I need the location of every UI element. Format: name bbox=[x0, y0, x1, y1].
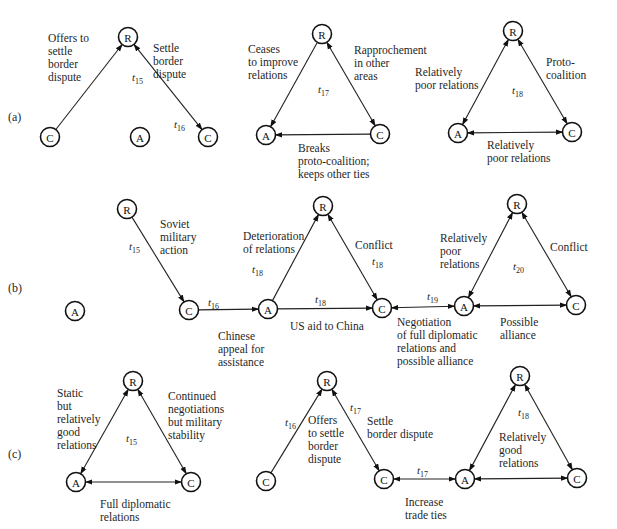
node-r: R bbox=[504, 22, 523, 41]
edge-a-c bbox=[474, 478, 567, 479]
svg-text:R: R bbox=[516, 371, 524, 383]
node-c: C bbox=[182, 473, 201, 492]
svg-text:R: R bbox=[323, 376, 331, 388]
node-a: A bbox=[455, 297, 474, 316]
svg-text:A: A bbox=[454, 128, 462, 140]
edge-label: Chineseappeal forassistance bbox=[218, 330, 264, 368]
node-r: R bbox=[318, 372, 337, 391]
edge-label: Possiblealliance bbox=[500, 316, 538, 341]
time-label: t17 bbox=[417, 464, 428, 479]
edge-c-a3 bbox=[391, 306, 454, 308]
panel-time-label: t17 bbox=[318, 83, 329, 98]
svg-text:A: A bbox=[264, 304, 272, 316]
svg-text:A: A bbox=[460, 301, 468, 313]
node-a: A bbox=[259, 300, 278, 319]
edge-label: Conflict bbox=[355, 239, 393, 251]
time-label: t15 bbox=[129, 240, 140, 255]
edge-label: Full diplomaticrelations bbox=[100, 498, 171, 523]
svg-text:R: R bbox=[513, 199, 521, 211]
edge-label: Settleborder dispute bbox=[367, 415, 433, 441]
edge-r-c bbox=[518, 39, 567, 124]
row-label: (b) bbox=[8, 281, 22, 295]
node-a: A bbox=[257, 126, 276, 145]
svg-text:C: C bbox=[376, 129, 383, 141]
node-r: R bbox=[119, 28, 138, 47]
node-c: C bbox=[375, 470, 394, 489]
node-c: C bbox=[563, 123, 582, 142]
svg-text:R: R bbox=[319, 201, 327, 213]
edge-label: Deteriorationof relations bbox=[243, 230, 305, 255]
node-r: R bbox=[124, 372, 143, 391]
node-c: C bbox=[568, 469, 587, 488]
edge-label: Staticbutrelativelygoodrelations bbox=[57, 387, 101, 451]
svg-text:C: C bbox=[185, 305, 192, 317]
node-c: C bbox=[180, 301, 199, 320]
svg-text:C: C bbox=[572, 300, 579, 312]
edge-label: Conflict bbox=[550, 241, 588, 253]
svg-text:A: A bbox=[262, 130, 270, 142]
time-label: t15 bbox=[132, 71, 143, 86]
node-a: A bbox=[449, 124, 468, 143]
svg-text:R: R bbox=[124, 32, 132, 44]
panel-time-label: t18 bbox=[518, 406, 529, 421]
node-a: A bbox=[456, 470, 475, 489]
edge-a-r bbox=[81, 389, 129, 473]
svg-text:R: R bbox=[129, 376, 137, 388]
svg-text:C: C bbox=[568, 127, 575, 139]
time-label: t16 bbox=[174, 118, 185, 133]
edge-c-a bbox=[275, 134, 370, 135]
time-label: t19 bbox=[427, 290, 438, 305]
edge-c-a2 bbox=[198, 309, 258, 310]
edge-a-c bbox=[473, 305, 566, 306]
edge-a-r bbox=[272, 214, 318, 300]
time-label: t16 bbox=[285, 416, 296, 431]
svg-text:C: C bbox=[187, 477, 194, 489]
svg-text:A: A bbox=[461, 474, 469, 486]
row-label: (a) bbox=[8, 110, 21, 124]
node-a: A bbox=[67, 473, 86, 492]
panel-time-label: t20 bbox=[513, 260, 524, 275]
svg-text:C: C bbox=[573, 473, 580, 485]
svg-text:R: R bbox=[509, 26, 517, 38]
edge-label: Negotiationof full diplomaticrelations a… bbox=[397, 316, 477, 368]
node-c: C bbox=[41, 128, 60, 147]
edge-label: Settleborderdispute bbox=[153, 42, 186, 81]
panel-time-label: t18 bbox=[512, 84, 523, 99]
svg-text:C: C bbox=[46, 132, 53, 144]
edge-r-c bbox=[522, 212, 571, 297]
panel-time-label: t15 bbox=[126, 432, 137, 447]
node-r: R bbox=[314, 197, 333, 216]
node-c: C bbox=[373, 299, 392, 318]
edge-label: Increasetrade ties bbox=[405, 496, 447, 521]
node-c: C bbox=[371, 125, 390, 144]
row-label: (c) bbox=[8, 447, 21, 461]
edge-a-r bbox=[468, 212, 512, 297]
edge-label: Relativelypoor relations bbox=[415, 66, 479, 92]
node-c: C bbox=[199, 128, 218, 147]
center-label: Relativelygoodrelations bbox=[499, 431, 547, 469]
edge-label: Offersto settleborderdispute bbox=[308, 414, 344, 466]
edge-label: Breaksproto-coalition;keeps other ties bbox=[298, 142, 370, 181]
node-r: R bbox=[511, 367, 530, 386]
edge-label: Relativelypoorrelations bbox=[440, 232, 488, 270]
svg-text:A: A bbox=[72, 477, 80, 489]
svg-text:C: C bbox=[378, 303, 385, 315]
edge-a-c bbox=[277, 308, 372, 309]
edge-label: Continuednegotiationsbut militarystabili… bbox=[168, 390, 225, 442]
svg-text:R: R bbox=[123, 204, 131, 216]
time-label: t18 bbox=[252, 263, 263, 278]
triad-diagram: RCACRACRACRACARCARCRACRCCARC (a)Offers t… bbox=[0, 0, 617, 529]
edge-label: US aid to China bbox=[290, 320, 364, 332]
svg-text:C: C bbox=[262, 476, 269, 488]
edge-a-c bbox=[467, 132, 562, 133]
svg-text:R: R bbox=[318, 29, 326, 41]
node-r: R bbox=[508, 195, 527, 214]
svg-text:A: A bbox=[136, 132, 144, 144]
svg-text:C: C bbox=[380, 474, 387, 486]
node-c: C bbox=[257, 472, 276, 491]
time-label: t17 bbox=[350, 401, 361, 416]
svg-text:C: C bbox=[204, 132, 211, 144]
node-c: C bbox=[567, 296, 586, 315]
edge-r-c bbox=[328, 214, 377, 300]
edge-label: Sovietmilitaryaction bbox=[160, 218, 197, 256]
